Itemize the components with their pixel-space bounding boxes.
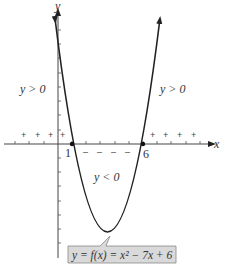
y-axis-label: y [54,0,61,13]
svg-text:+: + [150,130,155,140]
svg-text:+: + [163,130,168,140]
sign-marks-plus-right: + + + + [150,130,196,140]
root-label-1: 1 [65,146,71,160]
function-label-callout: y = f(x) = x² − 7x + 6 [68,236,176,263]
svg-text:–: – [111,147,116,157]
root-point-6 [141,142,145,146]
sign-marks-plus-left: + + + + [21,130,65,140]
root-label-6: 6 [143,147,149,161]
parabola-diagram: x y 1 6 [0,0,226,275]
sign-marks-minus-middle: – – – – [83,147,130,157]
svg-text:–: – [125,147,130,157]
parabola-curve [55,20,160,232]
svg-text:+: + [60,130,65,140]
function-label: y = f(x) = x² − 7x + 6 [71,249,173,262]
svg-text:+: + [191,130,196,140]
svg-text:+: + [35,130,40,140]
svg-text:–: – [97,147,102,157]
svg-text:+: + [48,130,53,140]
region-label-left: y > 0 [19,82,45,96]
svg-text:+: + [21,130,26,140]
region-label-right: y > 0 [159,82,185,96]
svg-text:+: + [177,130,182,140]
x-axis-label: x [213,137,220,151]
region-label-middle: y < 0 [93,170,119,184]
svg-text:–: – [83,147,88,157]
